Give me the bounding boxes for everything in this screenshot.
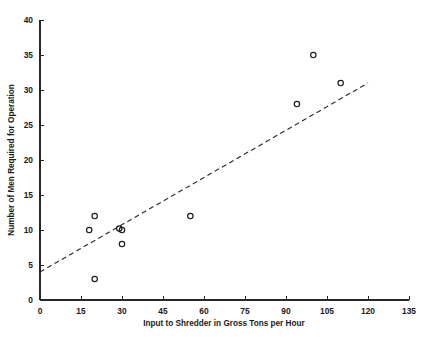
y-tick-label: 40: [24, 15, 34, 25]
scatter-plot-figure: 0153045607590105120135 0510152025303540 …: [0, 0, 439, 339]
y-tick-label: 20: [24, 155, 34, 165]
y-tick-label: 15: [24, 190, 34, 200]
x-tick-label: 15: [76, 306, 86, 316]
y-tick-label: 0: [28, 295, 33, 305]
y-tick-label: 30: [24, 85, 34, 95]
x-axis-title: Input to Shredder in Gross Tons per Hour: [143, 319, 305, 328]
y-tick-label: 5: [28, 260, 33, 270]
x-tick-label: 75: [240, 306, 250, 316]
x-tick-label: 60: [199, 306, 209, 316]
x-tick-label: 120: [361, 306, 375, 316]
y-axis-title: Number of Men Required for Operation: [7, 84, 16, 235]
x-tick-label: 30: [117, 306, 127, 316]
plot-background: [0, 0, 439, 339]
y-tick-label: 25: [24, 120, 34, 130]
y-tick-label: 10: [24, 225, 34, 235]
x-tick-label: 135: [402, 306, 416, 316]
x-tick-label: 45: [158, 306, 168, 316]
x-tick-label: 0: [38, 306, 43, 316]
y-tick-label: 35: [24, 50, 34, 60]
x-tick-label: 105: [320, 306, 334, 316]
x-tick-label: 90: [281, 306, 291, 316]
